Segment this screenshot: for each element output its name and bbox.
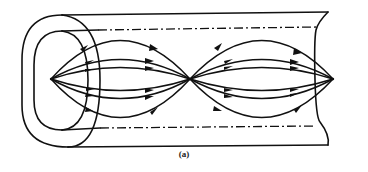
figure-caption: (a) <box>0 149 368 159</box>
field-lines-lobe-1 <box>51 41 190 118</box>
left-node <box>50 78 52 80</box>
right-node <box>332 78 334 80</box>
waveguide-diagram <box>0 0 368 172</box>
center-node <box>189 78 191 80</box>
field-lines-lobe-2 <box>190 41 333 118</box>
axis-dash-lines <box>98 27 316 128</box>
